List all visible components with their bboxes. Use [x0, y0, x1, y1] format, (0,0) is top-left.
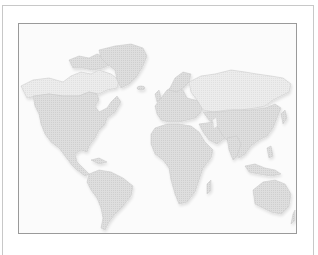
indonesia [245, 164, 281, 176]
map-frame [18, 23, 297, 234]
north-america [33, 92, 121, 176]
scandinavia [169, 72, 191, 92]
japan [281, 110, 287, 124]
iceland [137, 86, 145, 90]
australia [253, 180, 291, 214]
south-america [87, 170, 133, 230]
north-america-north [21, 70, 119, 98]
madagascar [207, 180, 211, 194]
world-map [19, 24, 296, 233]
new-zealand [291, 210, 295, 224]
africa [151, 124, 213, 204]
caribbean [91, 158, 107, 164]
philippines [267, 146, 273, 158]
